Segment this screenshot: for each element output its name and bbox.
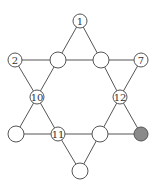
node-circle xyxy=(50,52,66,68)
node-lower-inner-left: 11 xyxy=(51,127,65,141)
node-top: 1 xyxy=(73,14,87,28)
node-upper-inner-left xyxy=(50,52,66,68)
node-label: 10 xyxy=(31,92,44,103)
node-lower-inner-right xyxy=(92,126,108,142)
node-upper-inner-right xyxy=(93,52,109,68)
node-upper-left: 2 xyxy=(8,53,22,67)
shaded-node-circle xyxy=(134,127,148,141)
nodes-layer: 127101211 xyxy=(8,14,148,179)
node-mid-right: 12 xyxy=(113,90,127,104)
node-mid-left: 10 xyxy=(30,90,44,104)
node-label: 7 xyxy=(138,55,144,66)
node-bottom xyxy=(72,163,88,179)
node-label: 12 xyxy=(114,92,127,103)
node-lower-right xyxy=(134,127,148,141)
node-circle xyxy=(92,126,108,142)
node-lower-left xyxy=(8,126,24,142)
node-circle xyxy=(93,52,109,68)
node-circle xyxy=(72,163,88,179)
node-label: 2 xyxy=(12,55,18,66)
node-label: 1 xyxy=(77,16,83,27)
node-label: 11 xyxy=(52,129,65,140)
star-puzzle-diagram: 127101211 xyxy=(0,0,160,192)
node-upper-right: 7 xyxy=(134,53,148,67)
node-circle xyxy=(8,126,24,142)
